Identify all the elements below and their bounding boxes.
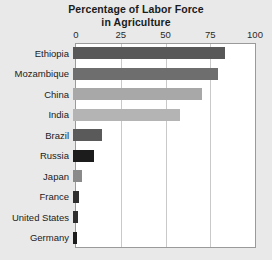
category-label-france: France <box>0 191 72 202</box>
bar-track <box>72 84 253 105</box>
bar-row: China <box>0 84 272 105</box>
bar-track <box>72 166 253 187</box>
bar-row: Germany <box>0 228 272 249</box>
bottom-caption-strip <box>0 250 272 260</box>
bar-track <box>72 146 253 167</box>
x-tick-label-25: 25 <box>115 29 126 40</box>
bar-track <box>72 43 253 64</box>
category-label-germany: Germany <box>0 232 72 243</box>
chart-title: Percentage of Labor Force in Agriculture <box>0 3 272 28</box>
bar-france <box>73 191 79 203</box>
bar-japan <box>73 170 82 182</box>
bar-track <box>72 125 253 146</box>
bar-row: Japan <box>0 166 272 187</box>
bar-track <box>72 228 253 249</box>
category-label-ethiopia: Ethiopia <box>0 48 72 59</box>
bar-china <box>73 88 202 100</box>
chart-title-line-2: in Agriculture <box>0 16 272 29</box>
bar-chart-figure: Percentage of Labor Force in Agriculture… <box>0 0 272 260</box>
bar-germany <box>73 232 77 244</box>
bar-track <box>72 207 253 228</box>
x-axis-tick-labels: 0255075100 <box>0 29 272 41</box>
x-tick-label-75: 75 <box>205 29 216 40</box>
bar-row: Ethiopia <box>0 43 272 64</box>
bar-row: France <box>0 187 272 208</box>
x-tick-label-50: 50 <box>160 29 171 40</box>
bar-track <box>72 187 253 208</box>
category-label-mozambique: Mozambique <box>0 68 72 79</box>
bar-track <box>72 64 253 85</box>
bar-russia <box>73 150 94 162</box>
bar-track <box>72 105 253 126</box>
bar-rows: EthiopiaMozambiqueChinaIndiaBrazilRussia… <box>0 43 272 248</box>
bar-row: United States <box>0 207 272 228</box>
bar-mozambique <box>73 68 218 80</box>
bar-india <box>73 109 180 121</box>
x-tick-label-100: 100 <box>247 29 263 40</box>
category-label-russia: Russia <box>0 150 72 161</box>
bar-row: India <box>0 105 272 126</box>
bar-brazil <box>73 129 102 141</box>
category-label-china: China <box>0 89 72 100</box>
category-label-india: India <box>0 109 72 120</box>
chart-title-line-1: Percentage of Labor Force <box>0 3 272 16</box>
x-tick-label-0: 0 <box>73 29 78 40</box>
category-label-brazil: Brazil <box>0 130 72 141</box>
bar-ethiopia <box>73 47 225 59</box>
category-label-united-states: United States <box>0 212 72 223</box>
category-label-japan: Japan <box>0 171 72 182</box>
bar-row: Mozambique <box>0 64 272 85</box>
bar-row: Brazil <box>0 125 272 146</box>
bar-row: Russia <box>0 146 272 167</box>
bar-united-states <box>73 211 78 223</box>
